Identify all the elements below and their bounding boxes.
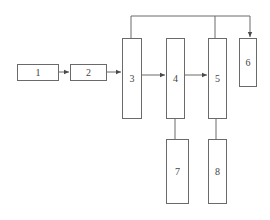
block-3-label: 3 [130, 73, 135, 84]
block-8: 8 [209, 140, 227, 204]
block-5-label: 5 [215, 73, 220, 84]
block-1: 1 [18, 65, 59, 81]
block-3: 3 [123, 39, 142, 119]
block-2: 2 [71, 65, 107, 81]
block-6-label: 6 [246, 57, 251, 68]
block-1-label: 1 [36, 67, 41, 78]
bus-3-to-6 [131, 16, 250, 38]
block-8-label: 8 [215, 166, 220, 177]
block-7-label: 7 [175, 166, 180, 177]
block-5: 5 [209, 39, 227, 119]
block-2-label: 2 [86, 67, 91, 78]
block-4: 4 [167, 39, 185, 119]
block-4-label: 4 [173, 73, 178, 84]
block-6: 6 [240, 39, 257, 87]
block-diagram: 1 2 3 4 5 6 7 8 [0, 0, 270, 220]
block-7: 7 [167, 140, 189, 204]
